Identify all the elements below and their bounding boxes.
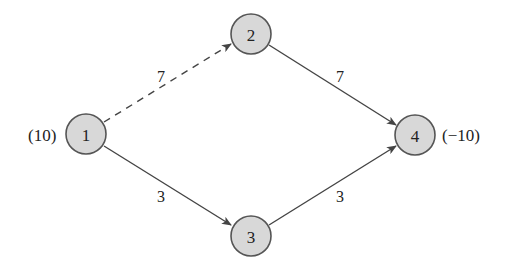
node-4: 4 [395,115,435,155]
node-4-label: 4 [411,127,420,146]
node-1-label: 1 [82,126,91,145]
network-diagram: 7 7 3 3 1 2 3 4 (10) (−10) [0,0,507,274]
node-4-demand: (−10) [442,126,480,145]
node-1: 1 [66,114,106,154]
edge-label-3-4: 3 [336,188,344,205]
node-2-label: 2 [247,26,256,45]
edge-label-1-2: 7 [157,68,165,85]
edge-1-to-3 [104,146,231,225]
edge-1-to-2 [104,44,231,122]
node-2: 2 [231,14,271,54]
edge-2-to-4 [269,45,396,125]
edge-3-to-4 [269,146,396,225]
edge-label-1-3: 3 [157,188,165,205]
node-1-supply: (10) [28,126,56,145]
node-3-label: 3 [247,228,256,247]
node-3: 3 [231,216,271,256]
edge-label-2-4: 7 [336,68,344,85]
